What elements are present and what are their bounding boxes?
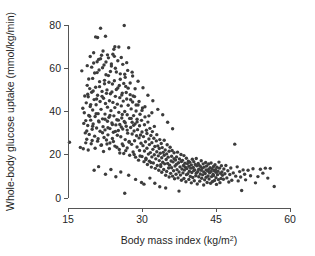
data-point — [227, 180, 230, 183]
data-point — [151, 99, 154, 102]
data-point — [158, 159, 161, 162]
data-point — [124, 76, 127, 79]
data-point — [228, 173, 231, 176]
data-point — [99, 108, 102, 111]
data-point — [122, 82, 125, 85]
data-point — [223, 172, 226, 175]
data-point — [143, 149, 146, 152]
data-point — [104, 173, 107, 176]
data-point — [125, 61, 128, 64]
data-point — [217, 160, 220, 163]
data-point — [129, 98, 132, 101]
data-point — [96, 36, 99, 39]
data-point — [97, 119, 100, 122]
data-point — [150, 111, 153, 114]
data-point — [109, 109, 112, 112]
data-point — [109, 168, 112, 171]
data-point — [119, 78, 122, 81]
data-point — [129, 126, 132, 129]
data-point — [132, 114, 135, 117]
data-point — [100, 95, 103, 98]
data-point — [236, 165, 239, 168]
data-point — [160, 142, 163, 145]
data-point — [117, 111, 120, 114]
data-point — [121, 63, 124, 66]
data-point — [139, 133, 142, 136]
data-point — [224, 164, 227, 167]
data-point — [123, 73, 126, 76]
data-point — [106, 133, 109, 136]
data-point — [94, 103, 97, 106]
data-point — [105, 88, 108, 91]
data-point — [85, 137, 88, 140]
data-point — [225, 176, 228, 179]
data-point — [165, 152, 168, 155]
data-point — [120, 116, 123, 119]
data-point — [116, 59, 119, 62]
data-point — [241, 168, 244, 171]
data-point — [125, 97, 128, 100]
data-point — [243, 173, 246, 176]
data-point — [118, 84, 121, 87]
data-point — [112, 48, 115, 51]
data-point — [154, 167, 157, 170]
data-point — [128, 93, 131, 96]
data-point — [105, 142, 108, 145]
data-point — [92, 169, 95, 172]
data-point — [124, 149, 127, 152]
data-point — [273, 185, 276, 188]
data-point — [175, 155, 178, 158]
data-point — [146, 120, 149, 123]
data-point — [98, 85, 101, 88]
data-point — [138, 154, 141, 157]
data-point — [111, 52, 114, 55]
data-point — [100, 90, 103, 93]
data-point — [82, 147, 85, 150]
data-point — [157, 169, 160, 172]
y-tick-label: 60 — [49, 62, 61, 74]
data-point — [109, 70, 112, 73]
data-point — [269, 167, 272, 170]
data-point — [185, 157, 188, 160]
data-point — [123, 110, 126, 113]
data-point — [187, 178, 190, 181]
data-point — [177, 161, 180, 164]
data-point — [104, 73, 107, 76]
data-point — [233, 142, 236, 145]
data-point — [147, 137, 150, 140]
data-point — [118, 151, 121, 154]
data-point — [155, 133, 158, 136]
data-point — [120, 93, 123, 96]
data-point — [119, 170, 122, 173]
data-point — [114, 67, 117, 70]
data-point — [200, 177, 203, 180]
data-point — [159, 152, 162, 155]
data-point — [91, 77, 94, 80]
data-point — [86, 84, 89, 87]
data-point — [200, 159, 203, 162]
data-point — [88, 115, 91, 118]
data-point — [95, 126, 98, 129]
data-point — [136, 80, 139, 83]
data-point — [249, 174, 252, 177]
data-point — [104, 102, 107, 105]
data-point — [182, 154, 185, 157]
data-point — [142, 182, 145, 185]
data-point — [96, 94, 99, 97]
x-tick-label: 60 — [284, 213, 296, 225]
data-point — [148, 127, 151, 130]
x-tick-label: 30 — [136, 213, 148, 225]
data-point — [146, 94, 149, 97]
data-point — [206, 174, 209, 177]
data-point — [102, 150, 105, 153]
data-point — [220, 164, 223, 167]
data-point — [150, 141, 153, 144]
data-point — [116, 102, 119, 105]
data-point — [182, 177, 185, 180]
data-point — [93, 71, 96, 74]
data-point — [106, 126, 109, 129]
data-point — [85, 101, 88, 104]
data-point — [239, 175, 242, 178]
data-point — [92, 51, 95, 54]
data-point — [106, 105, 109, 108]
